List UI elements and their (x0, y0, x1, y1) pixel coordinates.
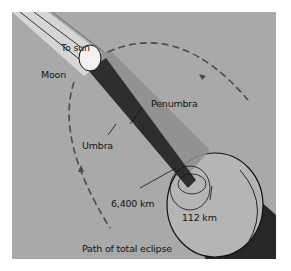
label-umbra-width: 112 km (182, 212, 217, 223)
label-earth-radius: 6,400 km (111, 198, 154, 209)
label-to-sun: To sun (61, 42, 90, 53)
eclipse-illustration (12, 12, 276, 259)
diagram-frame: To sun Moon Penumbra Umbra 6,400 km 112 … (12, 12, 276, 259)
label-moon: Moon (41, 69, 66, 80)
label-umbra: Umbra (82, 140, 113, 151)
label-path-of-total-eclipse: Path of total eclipse (82, 243, 172, 254)
label-penumbra: Penumbra (151, 98, 198, 109)
